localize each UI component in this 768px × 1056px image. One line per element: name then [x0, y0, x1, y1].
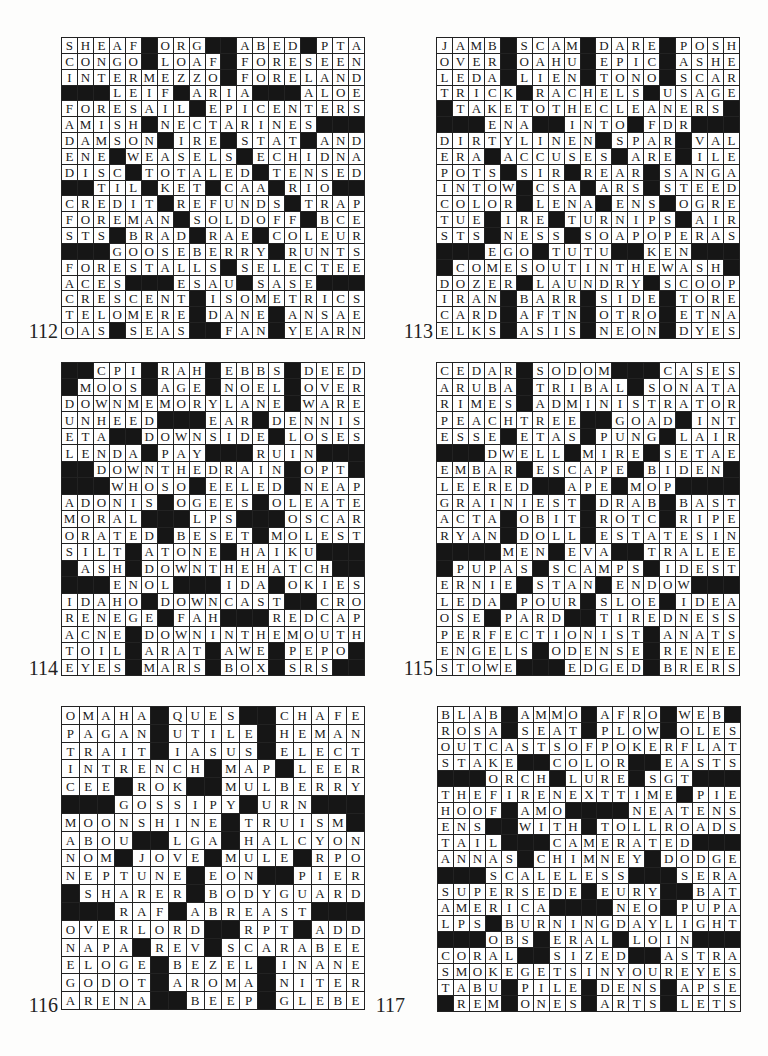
- letter-cell: R: [453, 86, 468, 101]
- letter-cell: R: [628, 165, 643, 180]
- black-square: [126, 643, 141, 658]
- letter-cell: A: [94, 594, 109, 609]
- letter-cell: R: [628, 38, 643, 53]
- letter-cell: C: [126, 291, 141, 306]
- letter-cell: E: [158, 70, 173, 85]
- letter-cell: A: [612, 228, 627, 243]
- black-square: [78, 363, 93, 378]
- letter-cell: E: [221, 528, 236, 543]
- letter-cell: I: [174, 133, 189, 148]
- letter-cell: C: [502, 868, 517, 883]
- black-square: [709, 835, 724, 850]
- letter-cell: S: [724, 627, 739, 642]
- letter-cell: S: [333, 528, 348, 543]
- letter-cell: A: [485, 594, 500, 609]
- letter-cell: E: [98, 778, 115, 795]
- letter-cell: T: [453, 660, 468, 675]
- letter-cell: T: [612, 307, 627, 322]
- letter-cell: D: [660, 117, 675, 132]
- letter-cell: D: [237, 577, 252, 592]
- black-square: [581, 594, 596, 609]
- letter-cell: O: [566, 755, 581, 770]
- letter-cell: W: [237, 643, 252, 658]
- letter-cell: R: [485, 478, 500, 493]
- letter-cell: B: [644, 462, 659, 477]
- black-square: [347, 814, 364, 831]
- black-square: [518, 851, 533, 866]
- letter-cell: T: [612, 260, 627, 275]
- black-square: [349, 445, 364, 460]
- black-square: [676, 133, 691, 148]
- letter-cell: E: [534, 787, 549, 802]
- letter-cell: E: [628, 101, 643, 116]
- letter-cell: S: [709, 980, 724, 995]
- letter-cell: R: [597, 771, 612, 786]
- letter-cell: B: [709, 707, 724, 722]
- black-square: [269, 244, 284, 259]
- letter-cell: S: [518, 723, 533, 738]
- letter-cell: T: [269, 165, 284, 180]
- letter-cell: E: [724, 54, 739, 69]
- letter-cell: B: [485, 379, 500, 394]
- letter-cell: E: [205, 814, 222, 831]
- letter-cell: O: [285, 577, 300, 592]
- letter-cell: F: [613, 707, 628, 722]
- letter-cell: A: [333, 511, 348, 526]
- letter-cell: I: [533, 70, 548, 85]
- letter-cell: T: [187, 725, 204, 742]
- letter-cell: C: [437, 196, 452, 211]
- letter-cell: I: [221, 429, 236, 444]
- puzzle-number: 116: [8, 994, 58, 1017]
- letter-cell: A: [158, 660, 173, 675]
- letter-cell: S: [708, 38, 723, 53]
- letter-cell: E: [692, 181, 707, 196]
- letter-cell: O: [517, 54, 532, 69]
- letter-cell: F: [237, 70, 252, 85]
- black-square: [549, 212, 564, 227]
- black-square: [628, 363, 643, 378]
- letter-cell: P: [258, 921, 275, 938]
- letter-cell: M: [222, 850, 239, 867]
- letter-cell: E: [222, 992, 239, 1009]
- letter-cell: D: [349, 133, 364, 148]
- letter-cell: V: [187, 939, 204, 956]
- letter-cell: O: [317, 181, 332, 196]
- letter-cell: C: [317, 511, 332, 526]
- black-square: [660, 495, 675, 510]
- letter-cell: F: [151, 903, 168, 920]
- black-square: [269, 307, 284, 322]
- letter-cell: A: [312, 707, 329, 724]
- letter-cell: S: [566, 964, 581, 979]
- letter-cell: C: [62, 778, 79, 795]
- black-square: [151, 743, 168, 760]
- black-square: [142, 117, 157, 132]
- black-square: [485, 610, 500, 625]
- letter-cell: A: [115, 885, 132, 902]
- black-square: [142, 594, 157, 609]
- black-square: [333, 181, 348, 196]
- black-square: [437, 244, 452, 259]
- letter-cell: E: [612, 196, 627, 211]
- letter-cell: O: [133, 796, 150, 813]
- letter-cell: O: [644, 228, 659, 243]
- letter-cell: E: [565, 544, 580, 559]
- letter-cell: O: [126, 133, 141, 148]
- letter-cell: L: [285, 495, 300, 510]
- letter-cell: C: [110, 165, 125, 180]
- letter-cell: A: [517, 610, 532, 625]
- letter-cell: M: [312, 725, 329, 742]
- letter-cell: A: [437, 511, 452, 526]
- letter-cell: T: [724, 412, 739, 427]
- letter-cell: I: [169, 743, 186, 760]
- black-square: [222, 921, 239, 938]
- letter-cell: D: [676, 323, 691, 338]
- letter-cell: O: [78, 643, 93, 658]
- letter-cell: T: [485, 133, 500, 148]
- letter-cell: D: [78, 495, 93, 510]
- black-square: [533, 244, 548, 259]
- letter-cell: A: [142, 212, 157, 227]
- letter-cell: W: [677, 707, 692, 722]
- black-square: [453, 117, 468, 132]
- letter-cell: T: [62, 307, 77, 322]
- black-square: [565, 445, 580, 460]
